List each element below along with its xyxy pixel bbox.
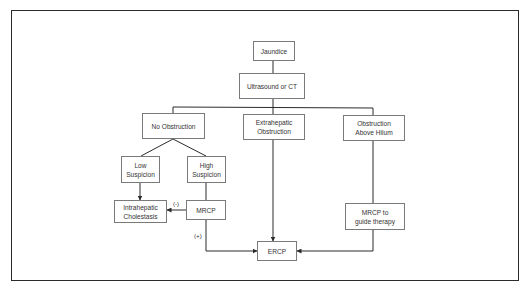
node-high-suspicion: High Suspicion bbox=[187, 156, 226, 183]
edge-label-positive: (+) bbox=[194, 232, 202, 239]
node-extrahepatic-obstruction: Extrahepatic Obstruction bbox=[243, 114, 305, 140]
node-obstruction-above-hilum: Obstruction Above Hilum bbox=[343, 115, 405, 141]
node-ultrasound-or-ct: Ultrasound or CT bbox=[239, 73, 305, 99]
node-jaundice: Jaundice bbox=[253, 41, 295, 61]
node-no-obstruction: No Obstruction bbox=[142, 113, 205, 139]
node-intrahepatic-cholestasis: Intrahepatic Cholestasis bbox=[114, 200, 167, 223]
node-mrcp: MRCP bbox=[186, 200, 226, 220]
node-ercp: ERCP bbox=[257, 241, 297, 261]
node-mrcp-guide-therapy: MRCP to guide therapy bbox=[345, 203, 405, 230]
node-low-suspicion: Low Suspicion bbox=[121, 156, 160, 183]
edge-label-negative: (-) bbox=[173, 200, 179, 207]
